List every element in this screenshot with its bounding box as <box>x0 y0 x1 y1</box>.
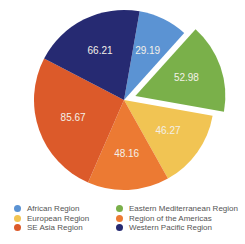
chart-legend: African Region Eastern Mediterranean Reg… <box>14 204 244 233</box>
legend-swatch <box>14 224 21 231</box>
pie-chart: 29.1952.9846.2748.1685.6766.21 <box>0 0 245 200</box>
slice-value-label: 66.21 <box>88 45 113 56</box>
legend-item-western-pacific-region: Western Pacific Region <box>116 223 244 233</box>
slice-value-label: 48.16 <box>114 148 139 159</box>
slice-value-label: 29.19 <box>135 45 160 56</box>
legend-swatch <box>116 215 123 222</box>
legend-swatch <box>14 215 21 222</box>
legend-item-se-asia-region: SE Asia Region <box>14 223 116 233</box>
slice-value-label: 85.67 <box>61 112 86 123</box>
legend-label: Western Pacific Region <box>129 223 212 232</box>
slice-value-label: 46.27 <box>155 125 180 136</box>
legend-swatch <box>14 205 21 212</box>
slice-value-label: 52.98 <box>174 72 199 83</box>
legend-item-eastern-mediterranean-region: Eastern Mediterranean Region <box>116 204 244 214</box>
legend-swatch <box>116 224 123 231</box>
legend-item-region-of-the-americas: Region of the Americas <box>116 214 244 224</box>
legend-label: European Region <box>27 214 89 223</box>
legend-swatch <box>116 205 123 212</box>
legend-label: SE Asia Region <box>27 223 83 232</box>
legend-label: Region of the Americas <box>129 214 212 223</box>
legend-item-african-region: African Region <box>14 204 116 214</box>
legend-label: African Region <box>27 204 79 213</box>
legend-label: Eastern Mediterranean Region <box>129 204 238 213</box>
legend-item-european-region: European Region <box>14 214 116 224</box>
